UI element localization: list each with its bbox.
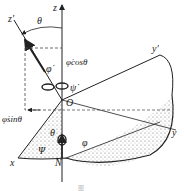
label-theta-top: θ bbox=[37, 16, 42, 26]
diagram-drawing bbox=[0, 0, 184, 191]
euler-angles-diagram: z' z θ φ̇ φ̇cosθ ψ̇ O y' φ̇sinθ θ Ψ φ x … bbox=[0, 0, 184, 191]
theta-arc-top bbox=[22, 27, 62, 34]
projection-dashed bbox=[25, 48, 62, 110]
label-phi-dot-sin-theta: φ̇sinθ bbox=[2, 114, 22, 124]
label-origin: O bbox=[66, 98, 73, 108]
label-theta-mid: θ bbox=[50, 128, 55, 138]
label-phi-dot-cos-theta: φ̇cosθ bbox=[66, 57, 87, 67]
label-phi: φ bbox=[82, 138, 88, 148]
label-x: x bbox=[10, 158, 14, 168]
label-z-prime: z' bbox=[8, 14, 14, 24]
phi-rotation-loop bbox=[42, 84, 54, 90]
label-y-prime: y' bbox=[152, 44, 159, 54]
label-y: y bbox=[172, 128, 176, 138]
label-psi-dot: ψ̇ bbox=[70, 83, 76, 93]
label-node: N bbox=[55, 158, 62, 168]
figure-caption: 图 bbox=[78, 185, 84, 191]
label-psi: Ψ bbox=[38, 146, 45, 156]
phi-dot-vector bbox=[25, 40, 45, 72]
label-phi-dot: φ̇ bbox=[46, 64, 52, 74]
label-z: z bbox=[53, 3, 57, 13]
